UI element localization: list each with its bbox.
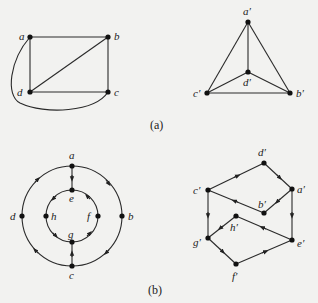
arrow-e1-h1 [262, 227, 266, 229]
label-g: g [68, 228, 74, 240]
node-d [27, 89, 32, 94]
node-c [105, 89, 110, 94]
node-a [69, 163, 74, 168]
panel-a-left-graph: a b c d [11, 30, 120, 110]
label-a-prime: a′ [297, 183, 306, 195]
label-e: e [69, 192, 74, 204]
label-c-prime: c′ [193, 87, 201, 99]
label-a-prime: a′ [243, 5, 252, 17]
label-f-prime: f′ [232, 270, 238, 282]
edge-d-b [30, 37, 108, 92]
arrow-g1-f1 [220, 249, 223, 252]
label-f: f [87, 210, 92, 222]
label-c: c [69, 269, 74, 281]
node-d-prime [261, 160, 266, 165]
node-d-prime [245, 69, 250, 74]
caption-b: (b) [148, 283, 162, 297]
node-h-prime [233, 213, 238, 218]
node-a [27, 34, 32, 39]
label-d-prime: d′ [243, 76, 252, 88]
node-b-prime [261, 210, 266, 215]
node-a-prime [289, 186, 294, 191]
label-c-prime: c′ [193, 184, 201, 196]
label-d-prime: d′ [258, 146, 267, 158]
node-c-prime [205, 187, 210, 192]
arrow-c1-d1 [234, 176, 238, 178]
label-b: b [114, 30, 120, 42]
arrow-d1-a1 [277, 175, 280, 178]
node-c-prime [204, 90, 209, 95]
label-b-prime: b′ [258, 198, 267, 210]
label-e-prime: e′ [297, 237, 305, 249]
node-b [105, 34, 110, 39]
label-h-prime: h′ [230, 221, 239, 233]
label-h: h [51, 210, 57, 222]
graph-isomorphism-figure: a b c d a′ d′ c′ b′ (a) [0, 0, 318, 303]
label-d: d [10, 210, 16, 222]
panel-b-left-graph: a b c d e f g h [10, 149, 134, 281]
arrow-f1-e1 [262, 251, 266, 253]
label-a: a [69, 149, 75, 161]
label-a: a [19, 30, 25, 42]
node-b [119, 213, 124, 218]
panel-b-right-graph: d′ a′ b′ c′ h′ e′ g′ f′ [193, 146, 306, 282]
arrow-a1-b1 [277, 199, 280, 202]
label-b: b [128, 210, 134, 222]
node-h [43, 213, 48, 218]
node-b-prime [287, 90, 292, 95]
node-c [69, 263, 74, 268]
node-g-prime [205, 235, 210, 240]
caption-a: (a) [150, 118, 163, 132]
node-g [69, 239, 74, 244]
node-f-prime [233, 261, 238, 266]
node-d [19, 213, 24, 218]
label-c: c [114, 86, 119, 98]
node-f [95, 213, 100, 218]
panel-a-right-graph: a′ d′ c′ b′ [193, 5, 305, 99]
label-d: d [17, 86, 23, 98]
node-e-prime [289, 237, 294, 242]
node-a-prime [245, 19, 250, 24]
edge-a-c-curved [11, 37, 108, 110]
arrow-b1-c1 [234, 201, 238, 203]
label-g-prime: g′ [193, 236, 202, 248]
label-b-prime: b′ [296, 87, 305, 99]
